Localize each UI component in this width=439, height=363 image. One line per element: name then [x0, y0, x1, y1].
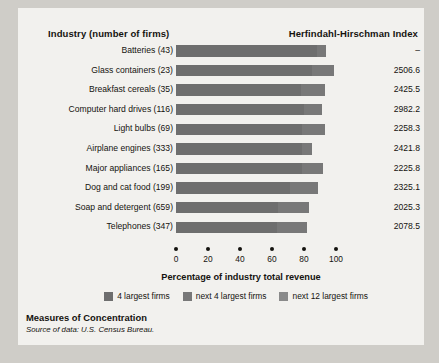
chart-row: Batteries (43)–	[18, 41, 424, 61]
axis-tick-label: 0	[174, 254, 179, 264]
bar-segment	[301, 84, 325, 96]
stacked-bar	[176, 143, 312, 155]
axis-tick-dot	[174, 247, 178, 251]
axis-tick-label: 20	[203, 254, 212, 264]
bar-track	[176, 104, 336, 116]
chart-rows: Batteries (43)–Glass containers (23)2506…	[18, 41, 424, 237]
x-axis-title: Percentage of industry total revenue	[18, 272, 424, 282]
legend-swatch	[104, 292, 113, 301]
row-value-hhi: 2025.3	[344, 198, 420, 218]
bar-segment	[277, 222, 307, 234]
bar-segment	[176, 222, 277, 234]
bar-segment	[278, 202, 308, 214]
chart-row: Dog and cat food (199)2325.1	[18, 178, 424, 198]
row-value-hhi: 2325.1	[344, 178, 420, 198]
row-value-hhi: 2506.6	[344, 61, 420, 81]
row-label-industry: Dog and cat food (199)	[18, 178, 173, 198]
bar-segment	[312, 65, 334, 77]
bar-segment	[176, 104, 304, 116]
row-value-hhi: 2225.8	[344, 159, 420, 179]
figure-caption: Measures of Concentration Source of data…	[26, 312, 154, 334]
axis-tick-label: 60	[267, 254, 276, 264]
row-value-hhi: 2078.5	[344, 217, 420, 237]
bar-segment	[304, 104, 322, 116]
axis-tick-dot	[238, 247, 242, 251]
chart-legend: 4 largest firmsnext 4 largest firmsnext …	[18, 291, 424, 301]
bar-track	[176, 143, 336, 155]
bar-segment	[290, 182, 319, 194]
row-label-industry: Light bulbs (69)	[18, 119, 173, 139]
chart-row: Glass containers (23)2506.6	[18, 61, 424, 81]
bar-track	[176, 163, 336, 175]
stacked-bar	[176, 163, 323, 175]
axis-tick-dot	[302, 247, 306, 251]
bar-track	[176, 65, 336, 77]
bar-segment	[176, 84, 301, 96]
bar-segment	[302, 163, 323, 175]
bar-segment	[176, 45, 317, 57]
stacked-bar	[176, 222, 307, 234]
caption-source: Source of data: U.S. Census Bureau.	[26, 325, 154, 334]
stacked-bar	[176, 45, 326, 57]
stacked-bar	[176, 84, 325, 96]
row-label-industry: Computer hard drives (116)	[18, 100, 173, 120]
row-label-industry: Major appliances (165)	[18, 159, 173, 179]
chart-row: Light bulbs (69)2258.3	[18, 119, 424, 139]
legend-item: next 12 largest firms	[279, 291, 367, 301]
legend-swatch	[279, 292, 288, 301]
chart-row: Telephones (347)2078.5	[18, 217, 424, 237]
bar-track	[176, 45, 336, 57]
axis-tick-dot	[206, 247, 210, 251]
stacked-bar	[176, 104, 322, 116]
bar-segment	[176, 182, 290, 194]
column-header-hhi: Herfindahl-Hirschman Index	[289, 28, 418, 39]
legend-swatch	[183, 292, 192, 301]
row-value-hhi: –	[344, 41, 424, 61]
row-label-industry: Airplane engines (333)	[18, 139, 173, 159]
figure-panel: Industry (number of firms) Herfindahl-Hi…	[18, 8, 424, 345]
row-value-hhi: 2421.8	[344, 139, 420, 159]
bar-segment	[176, 143, 302, 155]
row-label-industry: Telephones (347)	[18, 217, 173, 237]
bar-segment	[176, 163, 302, 175]
axis-tick-dot	[270, 247, 274, 251]
bar-track	[176, 124, 336, 136]
chart-row: Airplane engines (333)2421.8	[18, 139, 424, 159]
legend-label: next 12 largest firms	[292, 291, 367, 301]
stacked-bar	[176, 124, 325, 136]
axis-tick-label: 40	[235, 254, 244, 264]
legend-label: 4 largest firms	[117, 291, 170, 301]
row-value-hhi: 2425.5	[344, 80, 420, 100]
chart-row: Computer hard drives (116)2982.2	[18, 100, 424, 120]
stacked-bar	[176, 202, 309, 214]
bar-segment	[302, 143, 312, 155]
stacked-bar	[176, 65, 334, 77]
axis-tick-dot	[334, 247, 338, 251]
caption-title: Measures of Concentration	[26, 312, 154, 323]
bar-segment	[302, 124, 324, 136]
chart-row: Major appliances (165)2225.8	[18, 159, 424, 179]
x-axis: 020406080100	[176, 247, 346, 271]
bar-segment	[317, 45, 327, 57]
column-header-industry: Industry (number of firms)	[48, 28, 169, 39]
bar-segment	[176, 202, 278, 214]
row-value-hhi: 2258.3	[344, 119, 420, 139]
row-label-industry: Soap and detergent (659)	[18, 198, 173, 218]
row-label-industry: Batteries (43)	[18, 41, 173, 61]
axis-tick-label: 100	[329, 254, 343, 264]
bar-track	[176, 84, 336, 96]
chart-row: Soap and detergent (659)2025.3	[18, 198, 424, 218]
bar-segment	[176, 65, 312, 77]
stacked-bar	[176, 182, 318, 194]
row-value-hhi: 2982.2	[344, 100, 420, 120]
bar-segment	[176, 124, 302, 136]
bar-track	[176, 202, 336, 214]
bar-track	[176, 182, 336, 194]
chart-row: Breakfast cereals (35)2425.5	[18, 80, 424, 100]
row-label-industry: Glass containers (23)	[18, 61, 173, 81]
legend-label: next 4 largest firms	[196, 291, 267, 301]
axis-tick-label: 80	[299, 254, 308, 264]
row-label-industry: Breakfast cereals (35)	[18, 80, 173, 100]
legend-item: 4 largest firms	[104, 291, 170, 301]
legend-item: next 4 largest firms	[183, 291, 267, 301]
